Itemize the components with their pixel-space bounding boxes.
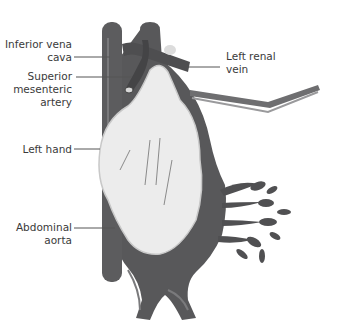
blood-spray bbox=[218, 180, 291, 263]
label-inferior-vena-cava: Inferior vena cava bbox=[0, 38, 72, 64]
label-superior-mesenteric-artery: Superior mesenteric artery bbox=[0, 70, 72, 109]
label-abdominal-aorta: Abdominal aorta bbox=[0, 221, 72, 247]
forceps bbox=[190, 85, 320, 108]
label-left-hand: Left hand bbox=[0, 143, 72, 156]
label-left-renal-vein: Left renal vein bbox=[226, 50, 316, 76]
